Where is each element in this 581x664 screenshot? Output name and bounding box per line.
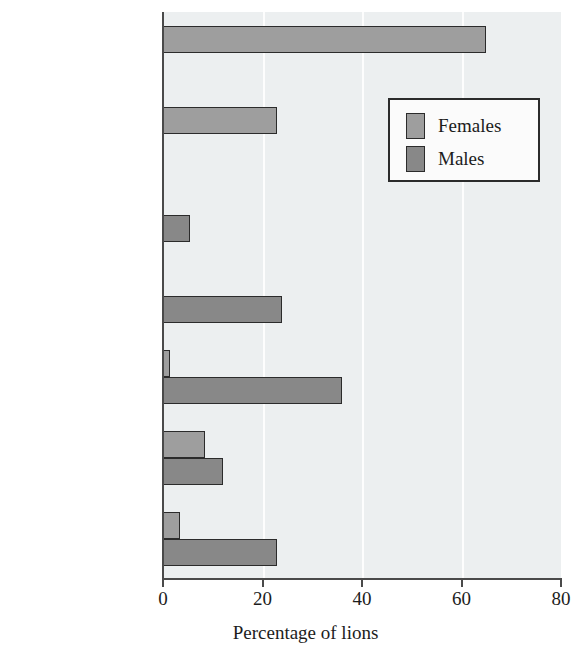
bar-males xyxy=(163,539,277,566)
legend-item-females: Females xyxy=(406,109,538,142)
x-axis-tick xyxy=(461,578,463,587)
bar-females xyxy=(163,107,277,134)
legend-label-females: Females xyxy=(438,115,501,137)
legend-swatch-females-icon xyxy=(406,113,425,139)
x-axis-tick-label: 60 xyxy=(452,588,471,610)
legend-item-males: Males xyxy=(406,142,538,175)
x-axis-tick xyxy=(560,578,562,587)
x-axis-tick xyxy=(262,578,264,587)
legend-swatch-males-icon xyxy=(406,146,425,172)
bar-females xyxy=(163,26,486,53)
gridline xyxy=(362,12,364,579)
y-axis-line xyxy=(162,12,164,580)
bar-females xyxy=(163,512,180,539)
x-axis-tick xyxy=(162,578,164,587)
x-axis-tick-label: 80 xyxy=(552,588,571,610)
legend-label-males: Males xyxy=(438,148,484,170)
bar-chart: 020406080 Remained in natal prideFormed … xyxy=(0,0,581,664)
chart-legend: Females Males xyxy=(388,98,540,182)
x-axis-tick xyxy=(361,578,363,587)
bar-males xyxy=(163,458,223,485)
x-axis-title: Percentage of lions xyxy=(0,622,581,644)
x-axis-tick-label: 20 xyxy=(253,588,272,610)
bar-males xyxy=(163,296,282,323)
bar-females xyxy=(163,350,170,377)
x-axis-tick-label: 40 xyxy=(353,588,372,610)
bar-females xyxy=(163,431,205,458)
bar-males xyxy=(163,215,190,242)
bar-males xyxy=(163,377,342,404)
x-axis-tick-label: 0 xyxy=(158,588,168,610)
